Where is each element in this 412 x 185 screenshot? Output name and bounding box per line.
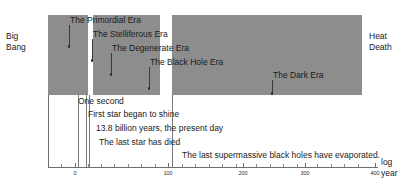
event-label-last-star-died: The last star has died — [99, 137, 180, 147]
axis-tick-minor — [101, 164, 102, 167]
event-label-black-holes-evaporated: The last supermassive black holes have e… — [182, 150, 380, 160]
axis-tick-minor — [297, 164, 298, 167]
heat-death-label: Heat Death — [369, 31, 392, 53]
axis-tick-major-100 — [168, 163, 169, 168]
era-label-blackhole: The Black Hole Era — [150, 57, 223, 67]
era-label-primordial: The Primordial Era — [70, 15, 141, 25]
axis-tick-minor — [61, 164, 62, 167]
axis-tick-minor — [155, 164, 156, 167]
axis-tick-minor — [114, 164, 115, 167]
axis-tick-minor — [182, 164, 183, 167]
axis-tick-major-300 — [305, 163, 306, 168]
big-bang-label-line1: Big — [6, 31, 26, 42]
axis-tick-minor — [344, 164, 345, 167]
axis-tick-minor — [141, 164, 142, 167]
axis-tick-label-0: 0 — [65, 170, 85, 176]
axis-title-log: log — [381, 157, 392, 167]
axis-tick-major-0 — [75, 163, 76, 168]
axis-tick-major-400 — [375, 163, 376, 168]
era-label-stelliferous: The Stelliferous Era — [93, 29, 168, 39]
era-leader-stelliferous — [92, 39, 93, 60]
axis-tick-minor — [236, 164, 237, 167]
era-band-primordial — [48, 15, 88, 95]
axis-tick-minor — [270, 164, 271, 167]
heat-death-label-line1: Heat — [369, 31, 392, 42]
era-dot-blackhole — [148, 87, 151, 90]
axis-tick-minor — [358, 164, 359, 167]
era-dot-primordial — [68, 45, 71, 48]
era-leader-blackhole — [149, 67, 150, 88]
event-label-first-star: First star began to shine — [88, 109, 179, 119]
axis-tick-label-200: 200 — [233, 170, 253, 176]
axis-tick-major-200 — [243, 163, 244, 168]
era-label-degenerate: The Degenerate Era — [112, 43, 189, 53]
event-label-one-second: One second — [78, 96, 124, 106]
axis-tick-minor — [88, 164, 89, 167]
era-leader-primordial — [69, 25, 70, 46]
axis-tick-minor — [256, 164, 257, 167]
universe-timeline-figure: Big Bang Heat Death The Primordial Era T… — [0, 0, 412, 185]
event-label-present-day: 13.8 billion years, the present day — [96, 123, 223, 133]
big-bang-label-line2: Bang — [6, 42, 26, 53]
era-dot-stelliferous — [91, 59, 94, 62]
axis-tick-minor — [209, 164, 210, 167]
big-bang-label: Big Bang — [6, 31, 26, 53]
axis-horizontal-line — [48, 167, 378, 168]
era-leader-degenerate — [111, 53, 112, 74]
heat-death-label-line2: Death — [369, 42, 392, 53]
axis-title-year: year — [381, 168, 398, 178]
axis-tick-minor — [283, 164, 284, 167]
axis-tick-label-100: 100 — [158, 170, 178, 176]
era-label-dark: The Dark Era — [273, 70, 324, 80]
axis-tick-label-300: 300 — [295, 170, 315, 176]
axis-tick-minor — [222, 164, 223, 167]
era-dot-degenerate — [110, 73, 113, 76]
axis-tick-minor — [195, 164, 196, 167]
era-dot-dark — [271, 92, 274, 95]
axis-vertical-stub — [48, 95, 49, 167]
axis-tick-minor — [331, 164, 332, 167]
era-band-blackhole-dark — [172, 15, 362, 95]
axis-tick-minor — [128, 164, 129, 167]
axis-tick-minor — [317, 164, 318, 167]
